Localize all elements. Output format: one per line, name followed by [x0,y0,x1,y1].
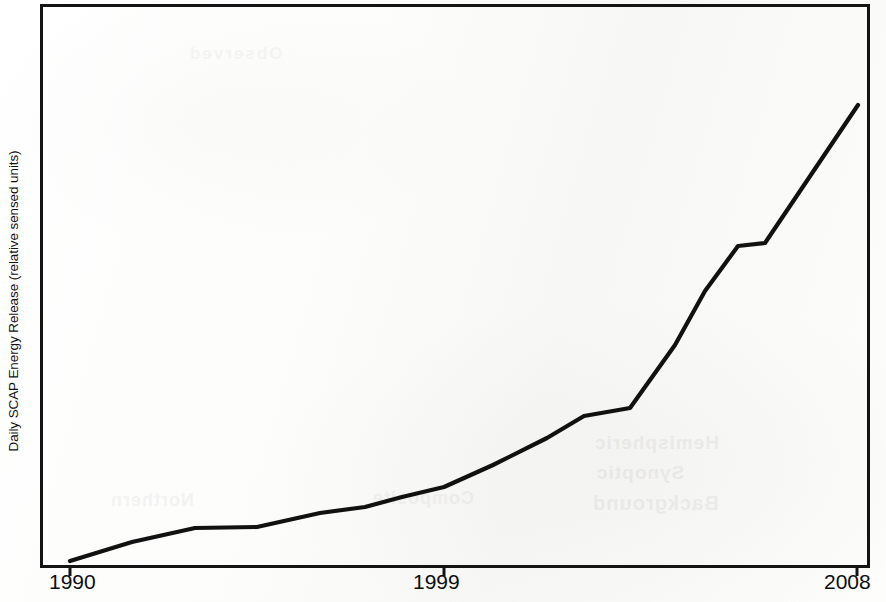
x-tick-label-2008: 2008 [824,570,871,594]
x-tick-label-1999: 1999 [413,570,460,594]
plot-area [0,0,886,602]
chart-figure: Hemispheric Synoptic Background Northern… [0,0,886,602]
data-series-line [70,105,858,561]
x-tick-label-1990: 1990 [49,570,96,594]
